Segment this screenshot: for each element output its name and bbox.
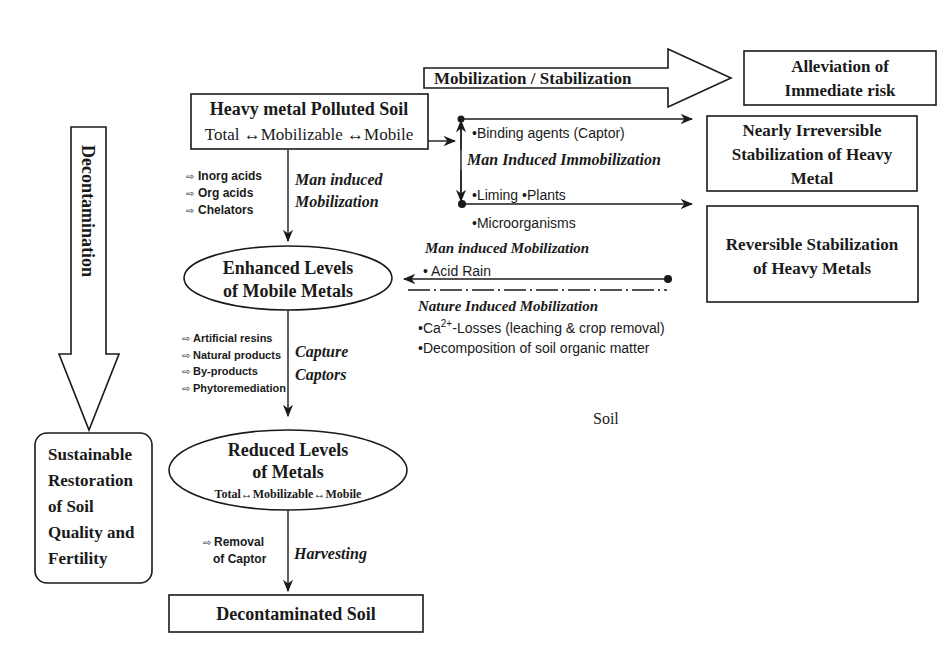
svg-text:of Metals: of Metals	[252, 462, 323, 482]
svg-text:Quality and: Quality and	[48, 523, 135, 542]
svg-text:Captors: Captors	[295, 366, 347, 384]
reversible-stabilization-box: Reversible Stabilization of Heavy Metals	[707, 206, 918, 302]
svg-text:Fertility: Fertility	[48, 549, 108, 568]
removal-of-captor-label: ⇨ Removal of Captor	[203, 535, 267, 566]
svg-text:Artificial resins: Artificial resins	[193, 332, 272, 344]
svg-text:⇨: ⇨	[182, 366, 190, 377]
svg-text:⇨: ⇨	[186, 171, 194, 182]
svg-text:Mobilization: Mobilization	[294, 193, 379, 210]
svg-text:⇨: ⇨	[203, 537, 211, 548]
mobilization-stabilization-label: Mobilization / Stabilization	[434, 69, 632, 88]
enhanced-levels-ellipse: Enhanced Levels of Mobile Metals	[184, 246, 392, 310]
polluted-soil-box: Heavy metal Polluted Soil Total ↔Mobiliz…	[191, 94, 428, 149]
svg-text:of Heavy Metals: of Heavy Metals	[753, 259, 871, 278]
acid-rain-arrow-origin	[664, 275, 672, 283]
svg-text:⇨: ⇨	[186, 205, 194, 216]
reduced-levels-ellipse: Reduced Levels of Metals Total↔Mobilizab…	[169, 430, 407, 510]
decontaminated-soil-box: Decontaminated Soil	[169, 595, 423, 632]
svg-text:⇨: ⇨	[182, 383, 190, 394]
decontamination-label: Decontamination	[78, 145, 98, 277]
irreversible-stabilization-box: Nearly Irreversible Stabilization of Hea…	[707, 116, 917, 191]
svg-text:Phytoremediation: Phytoremediation	[193, 382, 286, 394]
svg-text:Nearly Irreversible: Nearly Irreversible	[743, 121, 882, 140]
microorganisms-text: •Microorganisms	[472, 215, 576, 231]
liming-plants-text: •Liming •Plants	[472, 187, 566, 203]
soil-label: Soil	[593, 410, 619, 427]
svg-text:Man induced: Man induced	[294, 171, 384, 188]
svg-text:Total ↔Mobilizable ↔Mobile: Total ↔Mobilizable ↔Mobile	[205, 125, 413, 144]
acid-rain-text: • Acid Rain	[423, 263, 491, 279]
svg-text:of Captor: of Captor	[213, 552, 267, 566]
svg-text:Capture: Capture	[295, 343, 348, 361]
decomposition-text: •Decomposition of soil organic matter	[418, 340, 650, 356]
svg-text:Stabilization of Heavy: Stabilization of Heavy	[732, 145, 893, 164]
svg-text:Removal: Removal	[214, 535, 264, 549]
svg-text:Reversible Stabilization: Reversible Stabilization	[726, 235, 899, 254]
sustainable-restoration-box: Sustainable Restoration of Soil Quality …	[35, 433, 152, 583]
svg-text:⇨: ⇨	[182, 350, 190, 361]
ca-losses-text: •Ca2+-Losses (leaching & crop removal)	[418, 318, 665, 336]
svg-text:⇨: ⇨	[182, 333, 190, 344]
svg-text:⇨: ⇨	[186, 188, 194, 199]
man-induced-immobilization-label: Man Induced Immobilization	[466, 151, 661, 168]
svg-text:Chelators: Chelators	[198, 203, 254, 217]
capture-captors-label: Capture Captors	[295, 343, 348, 384]
soil-remediation-diagram: Mobilization / Stabilization Alleviation…	[0, 0, 945, 664]
man-induced-mobilization-left-label: Man induced Mobilization	[424, 240, 589, 256]
svg-text:Restoration: Restoration	[48, 471, 134, 490]
harvesting-label: Harvesting	[293, 545, 367, 563]
svg-text:Decontaminated Soil: Decontaminated Soil	[216, 604, 376, 624]
svg-text:Immediate risk: Immediate risk	[785, 81, 897, 100]
mobilization-stabilization-arrow: Mobilization / Stabilization	[424, 49, 731, 107]
decontamination-arrow: Decontamination	[59, 127, 119, 430]
svg-text:Total↔Mobilizable↔Mobile: Total↔Mobilizable↔Mobile	[215, 487, 363, 501]
svg-text:Metal: Metal	[791, 169, 834, 188]
svg-text:Alleviation of: Alleviation of	[791, 57, 889, 76]
binding-agents-text: •Binding agents (Captor)	[472, 125, 625, 141]
capture-agents-list: ⇨ Artificial resins ⇨ Natural products ⇨…	[182, 332, 286, 394]
svg-text:Heavy metal Polluted Soil: Heavy metal Polluted Soil	[210, 99, 408, 119]
svg-text:By-products: By-products	[193, 365, 258, 377]
nature-induced-mobilization-label: Nature Induced Mobilization	[417, 298, 598, 314]
svg-text:Reduced Levels: Reduced Levels	[228, 440, 349, 460]
svg-text:of Mobile Metals: of Mobile Metals	[223, 281, 353, 301]
svg-text:Inorg acids: Inorg acids	[198, 169, 262, 183]
svg-text:Org acids: Org acids	[198, 186, 254, 200]
man-induced-mobilization-down-label: Man induced Mobilization	[294, 171, 384, 210]
svg-text:of Soil: of Soil	[48, 497, 94, 516]
svg-text:Enhanced Levels: Enhanced Levels	[223, 258, 354, 278]
svg-text:Sustainable: Sustainable	[48, 445, 133, 464]
alleviation-box: Alleviation of Immediate risk	[744, 51, 936, 105]
mobilization-agents-list: ⇨ Inorg acids ⇨ Org acids ⇨ Chelators	[186, 169, 262, 217]
svg-text:Natural products: Natural products	[193, 349, 281, 361]
